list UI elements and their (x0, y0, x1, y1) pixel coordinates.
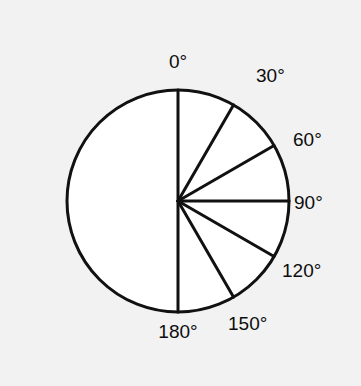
angle-label-150deg: 150° (228, 313, 267, 334)
angle-label-120deg: 120° (282, 260, 321, 281)
angle-diagram-figure: 0° 30° 60° 90° 120° 150° 180° (0, 0, 361, 386)
angle-label-30deg: 30° (256, 65, 285, 86)
angle-label-0deg: 0° (169, 51, 187, 72)
angle-label-180deg: 180° (158, 321, 197, 342)
angle-diagram-svg: 0° 30° 60° 90° 120° 150° 180° (0, 0, 361, 386)
angle-label-90deg: 90° (294, 192, 323, 213)
angle-label-60deg: 60° (293, 129, 322, 150)
